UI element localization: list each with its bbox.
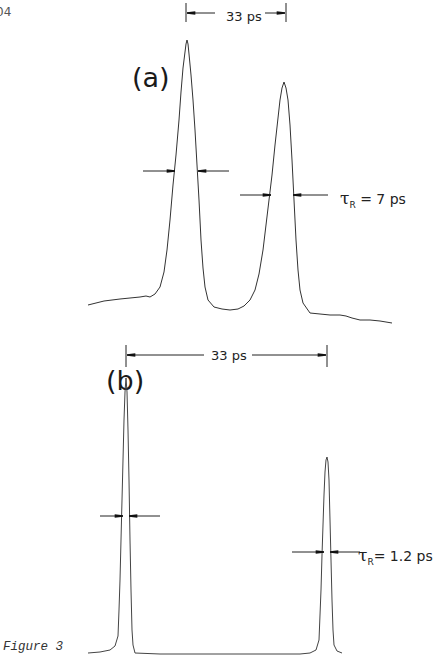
tau-symbol: τ	[340, 188, 349, 208]
separation-label-a: 33 ps	[223, 9, 265, 24]
tau-subscript: R	[349, 200, 355, 210]
resolution-label-b: τR= 1.2 ps	[358, 545, 433, 567]
trace-a	[88, 40, 392, 323]
figure-caption: Figure 3	[3, 640, 63, 654]
separation-label-b: 33 ps	[208, 348, 250, 363]
trace-b	[88, 378, 342, 654]
tau-value: = 7 ps	[360, 191, 406, 207]
tau-value: = 1.2 ps	[374, 548, 433, 564]
tau-symbol: τ	[358, 545, 367, 565]
resolution-label-a: τR = 7 ps	[340, 188, 406, 210]
